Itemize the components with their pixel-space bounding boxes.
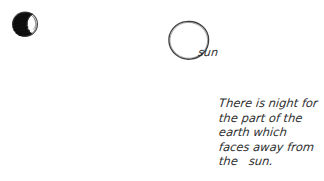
sun-caption: sun — [197, 46, 219, 59]
explanation-line: faces away from — [218, 140, 324, 155]
explanation-text-block: There is night for the part of the earth… — [219, 96, 323, 169]
explanation-line: the sun. — [218, 154, 324, 169]
earth-drawing — [13, 12, 38, 37]
explanation-line: the part of the — [218, 111, 324, 126]
explanation-line: There is night for — [218, 96, 324, 111]
explanation-line: earth which — [218, 125, 324, 140]
sketch-canvas: sun There is night for the part of the e… — [0, 0, 324, 181]
